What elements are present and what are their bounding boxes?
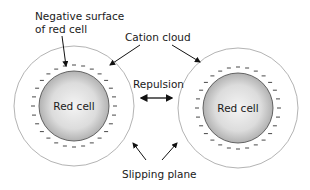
left-cell-label: Red cell	[53, 100, 94, 112]
diagram-canvas: Negative surface of red cell Cation clou…	[0, 0, 310, 190]
slipping-plane-label: Slipping plane	[122, 168, 197, 180]
negative-surface-label-line2: of red cell	[35, 23, 87, 35]
slipping-plane-arrow-left	[133, 143, 146, 160]
cation-cloud-label: Cation cloud	[125, 31, 191, 43]
cation-cloud-arrow-left	[110, 45, 140, 65]
right-cell-label: Red cell	[217, 102, 258, 114]
repulsion-label: Repulsion	[133, 78, 184, 90]
negative-surface-label-line1: Negative surface	[35, 10, 124, 22]
negative-surface-arrow	[62, 36, 66, 66]
slipping-plane-arrow-right	[162, 143, 177, 160]
cation-cloud-arrow-right	[172, 45, 200, 62]
